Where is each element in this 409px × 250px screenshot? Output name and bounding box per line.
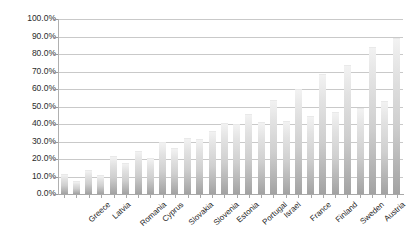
x-axis-tick-mark xyxy=(64,194,65,198)
x-axis-tick-label: Greece xyxy=(87,200,113,224)
x-axis-tick-mark xyxy=(200,194,201,198)
bar xyxy=(319,74,326,194)
y-axis-tick-label: 60.0% xyxy=(2,84,56,93)
x-axis-tick-mark xyxy=(237,194,238,198)
bar-series-container xyxy=(58,19,403,194)
bar xyxy=(122,163,129,194)
bar xyxy=(85,170,92,194)
x-axis-tick-mark xyxy=(150,194,151,198)
x-axis-tick-label: Finland xyxy=(333,200,359,224)
bar xyxy=(307,116,314,194)
bar xyxy=(221,123,228,194)
bar-chart: 100.0%90.0%80.0%70.0%60.0%50.0%40.0%30.0… xyxy=(0,0,409,250)
y-axis-tick-label: 80.0% xyxy=(2,49,56,58)
bar xyxy=(196,139,203,194)
x-axis-line xyxy=(58,194,404,195)
bar xyxy=(381,101,388,194)
x-axis-tick-mark xyxy=(175,194,176,198)
x-axis-tick-mark xyxy=(212,194,213,198)
y-axis-tick-label: 40.0% xyxy=(2,119,56,128)
x-axis-tick-mark xyxy=(360,194,361,198)
x-axis-tick-label: Slovenia xyxy=(211,200,240,227)
x-axis-tick-mark xyxy=(224,194,225,198)
x-axis-tick-label: Latvia xyxy=(110,200,132,221)
x-axis-tick-mark xyxy=(138,194,139,198)
bar xyxy=(344,65,351,195)
bar xyxy=(184,138,191,194)
x-axis-tick-mark xyxy=(311,194,312,198)
y-axis-tick-label: 90.0% xyxy=(2,32,56,41)
bar xyxy=(97,175,104,194)
x-axis-tick-mark xyxy=(385,194,386,198)
bar xyxy=(171,148,178,194)
x-axis-tick-mark xyxy=(335,194,336,198)
x-axis-tick-mark xyxy=(397,194,398,198)
bar xyxy=(245,114,252,195)
y-axis-tick-label: 50.0% xyxy=(2,102,56,111)
y-axis-tick-label: 20.0% xyxy=(2,154,56,163)
bar xyxy=(233,124,240,194)
x-axis-tick-label: Sweden xyxy=(359,200,387,226)
x-axis-tick-mark xyxy=(163,194,164,198)
y-axis-tick-label: 10.0% xyxy=(2,172,56,181)
x-axis-tick-mark xyxy=(261,194,262,198)
x-axis-tick-label: Slovakia xyxy=(187,200,216,227)
bar xyxy=(147,158,154,194)
y-axis-tick-label: 70.0% xyxy=(2,67,56,76)
bar xyxy=(295,89,302,194)
bar xyxy=(283,121,290,194)
y-axis-labels: 100.0%90.0%80.0%70.0%60.0%50.0%40.0%30.0… xyxy=(0,0,56,250)
x-axis-tick-mark xyxy=(101,194,102,198)
bar xyxy=(61,174,68,194)
y-axis-tick-label: 100.0% xyxy=(2,14,56,23)
x-axis-tick-mark xyxy=(286,194,287,198)
x-axis-tick-mark xyxy=(89,194,90,198)
bar xyxy=(270,100,277,194)
bar xyxy=(135,151,142,194)
x-axis-tick-mark xyxy=(249,194,250,198)
x-axis-tick-mark xyxy=(372,194,373,198)
bar xyxy=(393,38,400,194)
x-axis-tick-mark xyxy=(188,194,189,198)
bar xyxy=(73,181,80,194)
y-axis-tick-label: 30.0% xyxy=(2,137,56,146)
y-axis-tick-label: 0.0% xyxy=(2,189,56,198)
x-axis-tick-mark xyxy=(76,194,77,198)
x-axis-tick-label: France xyxy=(308,200,333,223)
bar xyxy=(369,47,376,194)
x-axis-tick-mark xyxy=(323,194,324,198)
x-axis-tick-mark xyxy=(126,194,127,198)
x-axis-tick-mark xyxy=(347,194,348,198)
bar xyxy=(209,131,216,194)
x-axis-tick-label: Austria xyxy=(382,200,407,223)
x-axis-tick-mark xyxy=(298,194,299,198)
x-axis-tick-mark xyxy=(114,194,115,198)
bar xyxy=(110,156,117,194)
bar xyxy=(159,142,166,195)
bar xyxy=(357,108,364,194)
x-axis-tick-mark xyxy=(273,194,274,198)
bar xyxy=(258,122,265,194)
bar xyxy=(332,112,339,194)
